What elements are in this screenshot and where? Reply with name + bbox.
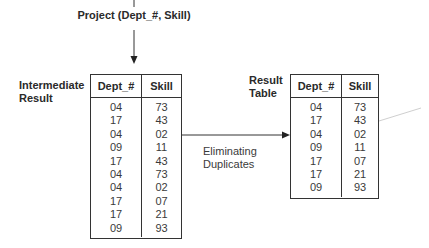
table-cell: 17 xyxy=(110,114,122,127)
table-header: Dept_# Skill xyxy=(91,75,181,98)
table-cell: 17 xyxy=(310,114,322,127)
table-cell: 04 xyxy=(110,181,122,194)
result-table: Dept_# Skill 04 17 04 09 17 17 09 73 43 … xyxy=(290,74,379,199)
result-title: Result Table xyxy=(249,74,283,100)
transition-line1: Eliminating xyxy=(203,145,257,158)
table-cell: 07 xyxy=(155,195,167,208)
column-header-skill: Skill xyxy=(342,75,378,97)
table-cell: 93 xyxy=(354,181,366,194)
table-cell: 73 xyxy=(354,101,366,114)
dept-column: 04 17 04 09 17 04 04 17 17 09 xyxy=(91,98,142,237)
skill-column: 73 43 02 11 43 73 02 07 21 93 xyxy=(142,98,181,237)
table-cell: 11 xyxy=(354,141,365,154)
table-cell: 17 xyxy=(310,155,322,168)
column-header-dept: Dept_# xyxy=(291,75,342,97)
table-cell: 02 xyxy=(354,128,366,141)
dept-column: 04 17 04 09 17 17 09 xyxy=(291,98,342,197)
table-cell: 09 xyxy=(310,181,322,194)
table-cell: 73 xyxy=(155,101,167,114)
table-cell: 43 xyxy=(155,155,167,168)
table-cell: 17 xyxy=(110,208,122,221)
table-cell: 17 xyxy=(110,155,122,168)
project-operation-label: Project (Dept_#, Skill) xyxy=(0,9,268,22)
table-cell: 09 xyxy=(110,141,122,154)
result-title-line1: Result xyxy=(249,74,283,87)
table-cell: 21 xyxy=(354,168,366,181)
intermediate-title: Intermediate Result xyxy=(19,79,84,105)
transition-label: Eliminating Duplicates xyxy=(203,145,257,171)
result-title-line2: Table xyxy=(249,87,283,100)
intermediate-title-line2: Result xyxy=(19,92,84,105)
table-cell: 04 xyxy=(110,128,122,141)
table-cell: 73 xyxy=(155,168,167,181)
table-cell: 04 xyxy=(110,168,122,181)
table-cell: 04 xyxy=(310,128,322,141)
table-cell: 07 xyxy=(354,155,366,168)
table-cell: 11 xyxy=(156,141,167,154)
table-cell: 17 xyxy=(110,195,122,208)
right-arrow-head xyxy=(282,132,290,139)
faint-pointer-line xyxy=(379,108,421,121)
table-cell: 09 xyxy=(310,141,322,154)
column-header-dept: Dept_# xyxy=(91,75,142,97)
down-arrow-head xyxy=(131,56,138,64)
table-header: Dept_# Skill xyxy=(291,75,378,98)
table-cell: 21 xyxy=(155,208,167,221)
intermediate-title-line1: Intermediate xyxy=(19,79,84,92)
table-cell: 09 xyxy=(110,222,122,235)
table-cell: 43 xyxy=(354,114,366,127)
table-cell: 04 xyxy=(310,101,322,114)
skill-column: 73 43 02 11 07 21 93 xyxy=(342,98,378,197)
table-cell: 04 xyxy=(110,101,122,114)
table-cell: 02 xyxy=(155,181,167,194)
intermediate-result-table: Dept_# Skill 04 17 04 09 17 04 04 17 17 … xyxy=(90,74,182,239)
table-cell: 02 xyxy=(155,128,167,141)
table-cell: 93 xyxy=(155,222,167,235)
table-cell: 43 xyxy=(155,114,167,127)
table-cell: 17 xyxy=(310,168,322,181)
transition-line2: Duplicates xyxy=(203,158,257,171)
column-header-skill: Skill xyxy=(142,75,181,97)
